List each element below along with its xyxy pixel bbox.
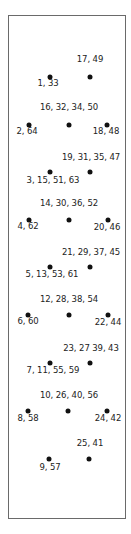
- dot-label: 24, 42: [95, 413, 121, 423]
- dot-label: 3, 15, 51, 63: [27, 175, 80, 185]
- dot-marker: [67, 123, 72, 128]
- dot-marker: [67, 313, 72, 318]
- dot-marker: [66, 409, 71, 414]
- dot-label: 18, 48: [93, 126, 119, 136]
- dot-label: 14, 30, 36, 52: [40, 198, 98, 208]
- dot-label: 20, 46: [94, 222, 120, 232]
- dot-marker: [88, 170, 93, 175]
- dot-label: 6, 60: [17, 316, 38, 326]
- dot-label: 21, 29, 37, 45: [62, 247, 120, 257]
- dot-label: 5, 13, 53, 61: [26, 269, 79, 279]
- dot-marker: [88, 361, 93, 366]
- dot-marker: [48, 170, 53, 175]
- dot-label: 4, 62: [17, 221, 38, 231]
- diagram-frame: [8, 15, 126, 519]
- dot-marker: [87, 457, 92, 462]
- dot-marker: [67, 218, 72, 223]
- dot-label: 8, 58: [17, 413, 38, 423]
- dot-marker: [47, 457, 52, 462]
- dot-label: 12, 28, 38, 54: [40, 294, 98, 304]
- dot-label: 25, 41: [77, 438, 103, 448]
- dot-label: 17, 49: [77, 54, 103, 64]
- dot-label: 1, 33: [37, 78, 58, 88]
- dot-label: 9, 57: [39, 462, 60, 472]
- dot-label: 19, 31, 35, 47: [62, 152, 120, 162]
- dot-marker: [88, 75, 93, 80]
- dot-marker: [88, 265, 93, 270]
- dot-label: 7, 11, 55, 59: [27, 365, 80, 375]
- dot-label: 2, 64: [16, 126, 37, 136]
- dot-label: 10, 26, 40, 56: [40, 390, 98, 400]
- dot-label: 22, 44: [95, 317, 121, 327]
- dot-label: 23, 27 39, 43: [63, 343, 118, 353]
- dot-label: 16, 32, 34, 50: [40, 102, 98, 112]
